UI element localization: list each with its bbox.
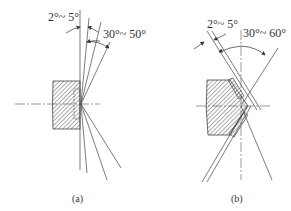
workpiece-a — [53, 81, 81, 129]
figure-a: 2°~ 5° 30°~ 50° (a) — [15, 10, 146, 205]
caption-a: (a) — [72, 193, 83, 205]
angle-label-b-small: 2°~ 5° — [207, 17, 238, 31]
caption-b: (b) — [231, 193, 243, 205]
angle-label-b-large: 30°~ 60° — [243, 26, 286, 40]
angle-label-a-large: 30°~ 50° — [103, 27, 146, 41]
diagram-canvas: 2°~ 5° 30°~ 50° (a) 2°~ 5° 30°~ 60° (b) — [0, 0, 291, 211]
figure-b: 2°~ 5° 30°~ 60° (b) — [194, 17, 286, 205]
angle-label-a-small: 2°~ 5° — [48, 10, 79, 24]
